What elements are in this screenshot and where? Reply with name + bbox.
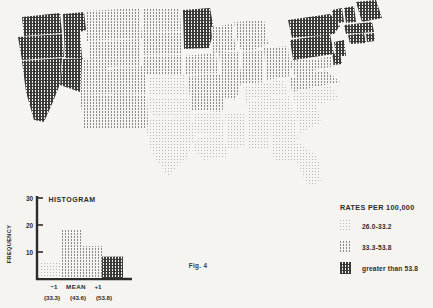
region-newmexico [113,95,148,129]
region-oklahoma [149,97,191,117]
region-pennsylvania [290,34,334,60]
region-louisiana [192,135,228,160]
region-nebraska [142,55,183,75]
region-indiana [243,51,264,84]
legend-item-low: 26.0-33.2 [340,220,433,232]
region-southcarolina [295,104,322,134]
region-minnesota [183,8,214,49]
region-alabama [247,113,270,149]
region-maine [356,0,382,22]
map-svg [0,0,433,200]
xvalue-mean: (43.6) [70,294,86,301]
region-montana [86,8,142,41]
region-newyork [288,14,340,38]
figure-caption: Fig. 4 [168,262,228,269]
histogram-title: HISTOGRAM [48,196,95,203]
region-arizona [80,95,112,129]
region-oregon [18,34,64,60]
region-newhampshire [344,6,356,23]
region-maryland [310,56,336,70]
region-vermont [332,8,344,24]
histogram-svg: HISTOGRAM FREQUENCY 30 20 10 −1 MEAN +1 … [2,188,152,308]
region-massachusetts [344,22,374,34]
histogram-ylabel: FREQUENCY [6,225,12,264]
region-kansas [148,75,187,96]
legend-title: RATES PER 100,000 [340,203,433,212]
region-florida [272,142,322,186]
legend-swatch-high [340,262,351,274]
figure-panel: HISTOGRAM FREQUENCY 30 20 10 −1 MEAN +1 … [0,0,433,308]
region-arkansas [192,112,224,135]
histogram-panel: HISTOGRAM FREQUENCY 30 20 10 −1 MEAN +1 … [2,188,152,308]
histogram-bar [39,262,60,278]
xmark-mean: MEAN [66,283,86,290]
legend-item-medium: 33.3-53.8 [340,241,433,253]
histogram-x-annotations: −1 MEAN +1 (33.3) (43.6) (53.8) [44,283,112,301]
ytick-label-10: 10 [26,249,34,256]
us-choropleth-map [0,0,433,200]
map-regions [18,0,382,186]
region-wisconsin [211,24,236,53]
ytick-label-30: 30 [26,195,34,202]
region-california [22,58,62,122]
region-connecticut [348,33,366,44]
legend-label-low: 26.0-33.2 [362,223,392,230]
region-washington [22,13,62,36]
region-ohio [264,46,290,80]
histogram-bar [102,257,123,278]
region-rhodeisland [366,33,375,42]
region-colorado [113,66,147,95]
histogram-bar [60,230,81,278]
xvalue-minus1: (33.3) [44,294,60,301]
legend-item-high: greater than 53.8 [340,262,433,274]
map-legend: RATES PER 100,000 26.0-33.2 33.3-53.8 gr… [340,203,433,283]
histogram-bars [39,230,123,278]
legend-swatch-low [340,220,351,232]
region-mississippi [225,113,246,150]
region-nevada [60,58,84,92]
region-missouri [188,74,226,112]
legend-swatch-medium [340,241,351,253]
region-newjersey [334,40,346,56]
legend-label-high: greater than 53.8 [362,265,418,272]
xmark-plus1: +1 [94,283,102,290]
region-idaho [63,12,86,58]
histogram-bar [81,246,102,278]
xvalue-plus1: (53.8) [96,294,112,301]
region-michigan [234,20,268,52]
region-iowa [184,53,218,74]
region-northdakota [143,9,181,32]
ytick-label-20: 20 [26,222,34,229]
region-southdakota [143,32,182,55]
legend-label-medium: 33.3-53.8 [362,244,392,251]
xmark-minus1: −1 [50,283,58,290]
region-texas [146,117,196,176]
